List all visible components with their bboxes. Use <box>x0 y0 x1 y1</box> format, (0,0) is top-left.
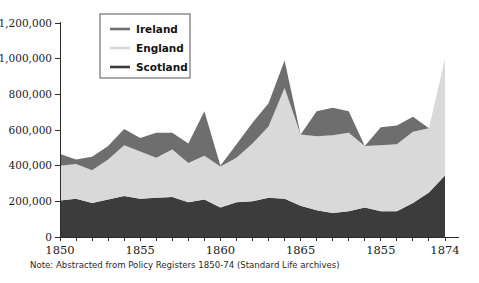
legend-label-scotland: Scotland <box>136 61 188 73</box>
plot-areas <box>60 59 445 237</box>
y-tick-label: 400,000 <box>9 159 52 171</box>
x-tick-label: 1860 <box>206 243 235 257</box>
chart-figure: 0200,000400,000600,000800,0001,000,000£1… <box>0 0 479 283</box>
x-tick-label: 1855 <box>366 243 395 257</box>
x-axis: 185018551860186518551874 <box>45 237 459 257</box>
y-tick-label: £1,200,000 <box>0 17 52 29</box>
y-tick-label: 600,000 <box>9 124 52 136</box>
y-tick-label: 800,000 <box>9 88 52 100</box>
x-tick-label: 1850 <box>45 243 74 257</box>
y-axis: 0200,000400,000600,000800,0001,000,000£1… <box>0 17 60 243</box>
chart-legend: IrelandEnglandScotland <box>100 14 190 78</box>
figure-note: Note: Abstracted from Policy Registers 1… <box>30 260 340 270</box>
legend-label-england: England <box>136 42 184 54</box>
x-tick-label: 1874 <box>430 243 459 257</box>
y-tick-label: 200,000 <box>9 195 52 207</box>
stacked-area-chart: 0200,000400,000600,000800,0001,000,000£1… <box>0 0 479 283</box>
x-tick-label: 1865 <box>286 243 315 257</box>
y-tick-label: 1,000,000 <box>0 52 52 64</box>
x-tick-label: 1855 <box>126 243 155 257</box>
y-tick-label: 0 <box>45 231 52 243</box>
legend-label-ireland: Ireland <box>136 23 178 35</box>
